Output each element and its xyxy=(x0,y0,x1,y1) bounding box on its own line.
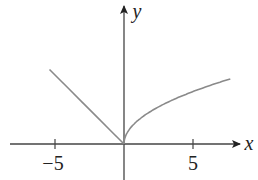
curve-left-branch xyxy=(50,70,125,145)
y-axis-label: y xyxy=(131,0,142,23)
x-tick-label-neg5: −5 xyxy=(42,152,63,174)
curve-right-branch xyxy=(124,79,230,144)
chart: −5 5 x y xyxy=(0,0,258,180)
x-tick-label-5: 5 xyxy=(188,152,198,174)
x-axis-label: x xyxy=(244,132,254,154)
